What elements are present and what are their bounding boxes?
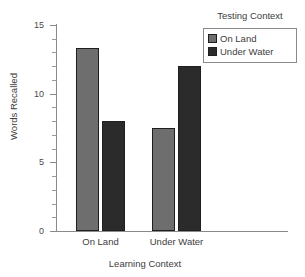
bar <box>178 66 201 231</box>
legend-label-on-land: On Land <box>220 33 256 44</box>
y-tick-label: 5 <box>14 158 44 167</box>
bar <box>152 128 175 231</box>
y-tick-major <box>50 94 57 95</box>
legend-box: On Land Under Water <box>203 28 297 63</box>
x-axis-title: Learning Context <box>0 258 290 269</box>
legend-label-under-water: Under Water <box>220 46 274 57</box>
legend-swatch-on-land <box>208 34 217 43</box>
y-tick-label: 15 <box>14 21 44 30</box>
x-axis-line <box>56 231 288 232</box>
y-axis-title: Words Recalled <box>8 47 19 167</box>
y-tick-label: 10 <box>14 90 44 99</box>
y-tick-major <box>50 25 57 26</box>
y-tick-major <box>50 162 57 163</box>
bar <box>76 48 99 231</box>
legend-swatch-under-water <box>208 47 217 56</box>
legend-item-on-land: On Land <box>208 32 292 45</box>
x-axis-label: Under Water <box>132 236 222 247</box>
legend-title: Testing Context <box>203 10 297 21</box>
bar <box>102 121 125 231</box>
bar-chart-figure: 051015 On LandUnder Water Learning Conte… <box>0 0 305 277</box>
y-tick-label: 0 <box>14 227 44 236</box>
legend-item-under-water: Under Water <box>208 45 292 58</box>
